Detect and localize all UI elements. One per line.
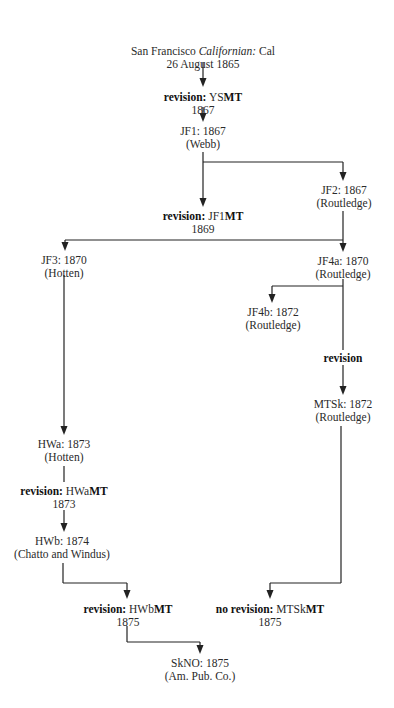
label-bold: MT bbox=[154, 603, 173, 615]
node-skno: SkNO: 1875 (Am. Pub. Co.) bbox=[165, 657, 236, 683]
node-hwa: HWa: 1873 (Hotten) bbox=[38, 438, 90, 464]
node-mtskmt: no revision: MTSkMT 1875 bbox=[216, 603, 324, 629]
label: HWb bbox=[126, 603, 154, 615]
node-californian: San Francisco Californian: Cal 26 August… bbox=[131, 45, 275, 71]
publisher: (Routledge) bbox=[317, 197, 372, 210]
label: YS bbox=[206, 91, 223, 103]
publisher: (Routledge) bbox=[246, 319, 301, 332]
label-italic: Californian: bbox=[199, 45, 257, 57]
date: 1867 bbox=[164, 104, 242, 117]
stemma-diagram: San Francisco Californian: Cal 26 August… bbox=[0, 0, 394, 708]
label: HWb: 1874 bbox=[14, 535, 110, 548]
label: MTSk: 1872 bbox=[314, 398, 372, 411]
date: 26 August 1865 bbox=[131, 58, 275, 71]
node-jf2: JF2: 1867 (Routledge) bbox=[317, 184, 372, 210]
label-bold: revision: bbox=[84, 603, 127, 615]
label: SkNO: 1875 bbox=[165, 657, 236, 670]
date: 1869 bbox=[163, 223, 244, 236]
node-jf4a: JF4a: 1870 (Routledge) bbox=[316, 255, 371, 281]
label-bold: MT bbox=[225, 210, 244, 222]
publisher: (Hotten) bbox=[38, 451, 90, 464]
node-jf1mt: revision: JF1MT 1869 bbox=[163, 210, 244, 236]
publisher: (Routledge) bbox=[314, 411, 372, 424]
date: 1875 bbox=[216, 616, 324, 629]
label: JF2: 1867 bbox=[317, 184, 372, 197]
label-bold: no revision: bbox=[216, 603, 274, 615]
label: Cal bbox=[256, 45, 275, 57]
label: JF4a: 1870 bbox=[316, 255, 371, 268]
publisher: (Webb) bbox=[180, 138, 226, 151]
label-bold: MT bbox=[224, 91, 243, 103]
node-ysmt: revision: YSMT 1867 bbox=[164, 91, 242, 117]
publisher: (Hotten) bbox=[41, 267, 87, 280]
node-hwb: HWb: 1874 (Chatto and Windus) bbox=[14, 535, 110, 561]
label: JF1 bbox=[205, 210, 225, 222]
label: San Francisco bbox=[131, 45, 199, 57]
node-mtsk: MTSk: 1872 (Routledge) bbox=[314, 398, 372, 424]
label-bold: revision: bbox=[163, 210, 206, 222]
node-revision: revision bbox=[324, 352, 363, 365]
node-jf1: JF1: 1867 (Webb) bbox=[180, 125, 226, 151]
publisher: (Chatto and Windus) bbox=[14, 548, 110, 561]
label: MTSk bbox=[273, 603, 305, 615]
date: 1875 bbox=[84, 616, 173, 629]
node-jf4b: JF4b: 1872 (Routledge) bbox=[246, 306, 301, 332]
node-jf3: JF3: 1870 (Hotten) bbox=[41, 254, 87, 280]
label: HWa: 1873 bbox=[38, 438, 90, 451]
date: 1873 bbox=[20, 498, 107, 511]
publisher: (Routledge) bbox=[316, 268, 371, 281]
label-bold: revision: bbox=[20, 485, 63, 497]
label-bold: revision bbox=[324, 352, 363, 364]
label-bold: MT bbox=[306, 603, 325, 615]
label-bold: MT bbox=[89, 485, 108, 497]
label-bold: revision: bbox=[164, 91, 207, 103]
label: JF1: 1867 bbox=[180, 125, 226, 138]
label: JF3: 1870 bbox=[41, 254, 87, 267]
publisher: (Am. Pub. Co.) bbox=[165, 670, 236, 683]
node-hwamt: revision: HWaMT 1873 bbox=[20, 485, 107, 511]
node-hwbmt: revision: HWbMT 1875 bbox=[84, 603, 173, 629]
label: HWa bbox=[63, 485, 89, 497]
label: JF4b: 1872 bbox=[246, 306, 301, 319]
